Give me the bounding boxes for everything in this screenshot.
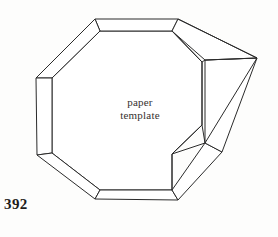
template-label-line-1: paper bbox=[88, 96, 192, 109]
template-label-line-2: template bbox=[88, 109, 192, 122]
top-flap bbox=[95, 19, 178, 31]
page-number: 392 bbox=[4, 196, 28, 213]
template-label: paper template bbox=[88, 96, 192, 122]
bottom-flap bbox=[95, 190, 178, 200]
figure-page: paper template 392 bbox=[0, 0, 278, 237]
right-lifted-panel bbox=[205, 58, 257, 152]
left-flap bbox=[36, 78, 52, 155]
